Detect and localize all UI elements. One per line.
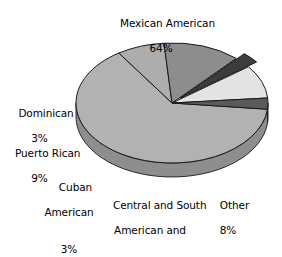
slice-label-mexican-american: Mexican American 64%	[96, 4, 226, 79]
pie-chart: Mexican American 64% Dominican 3% Puerto…	[0, 0, 282, 257]
slice-label-central-line1: Central and South	[113, 199, 206, 211]
slice-label-central-line2: American and	[100, 224, 200, 237]
slice-label-cuban-american-line2: American	[38, 206, 100, 219]
slice-label-other-name: Other	[220, 199, 249, 211]
slice-label-central-south-american: Central and South American and the Carib…	[100, 186, 200, 257]
slice-label-cuban-american: Cuban American 3%	[38, 168, 100, 257]
slice-label-cuban-american-pct: 3%	[38, 243, 100, 256]
slice-label-other-pct: 8%	[202, 224, 254, 237]
slice-label-other: Other 8%	[202, 186, 254, 257]
slice-label-cuban-american-line1: Cuban	[59, 181, 92, 193]
slice-label-mexican-american-pct: 64%	[96, 42, 226, 55]
slice-label-mexican-american-name: Mexican American	[120, 17, 215, 29]
slice-label-puerto-rican-name: Puerto Rican	[15, 147, 80, 159]
slice-label-dominican-name: Dominican	[18, 107, 73, 119]
